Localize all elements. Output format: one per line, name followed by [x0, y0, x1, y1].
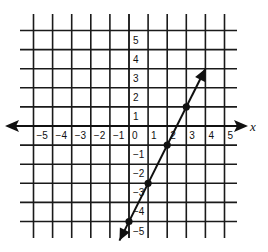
data-point	[145, 180, 152, 187]
y-tick-label: 4	[133, 54, 139, 65]
x-tick-label: −4	[56, 130, 68, 141]
y-tick-label: −1	[133, 149, 145, 160]
y-tick-label: 5	[133, 35, 139, 46]
y-tick-label: −2	[133, 168, 145, 179]
x-axis-label: x	[249, 119, 256, 134]
axes	[5, 14, 248, 238]
data-point	[183, 103, 190, 110]
x-tick-label: 3	[189, 130, 195, 141]
x-tick-label: −1	[113, 130, 125, 141]
y-tick-label: 1	[133, 111, 139, 122]
x-tick-label: −5	[37, 130, 49, 141]
data-point	[125, 218, 132, 225]
x-tick-label: 4	[208, 130, 214, 141]
y-tick-label: −5	[133, 226, 145, 237]
coordinate-plane: −5−4−3−2−101234554321−1−2−3−4−5 x	[0, 0, 268, 252]
y-tick-label: 2	[133, 92, 139, 103]
x-tick-label: 1	[151, 130, 157, 141]
x-tick-label: 0	[132, 130, 138, 141]
x-tick-label: −3	[75, 130, 87, 141]
data-point	[164, 142, 171, 149]
x-tick-label: 5	[228, 130, 234, 141]
tick-labels: −5−4−3−2−101234554321−1−2−3−4−5	[37, 35, 234, 237]
x-tick-label: −2	[94, 130, 106, 141]
y-tick-label: 3	[133, 73, 139, 84]
